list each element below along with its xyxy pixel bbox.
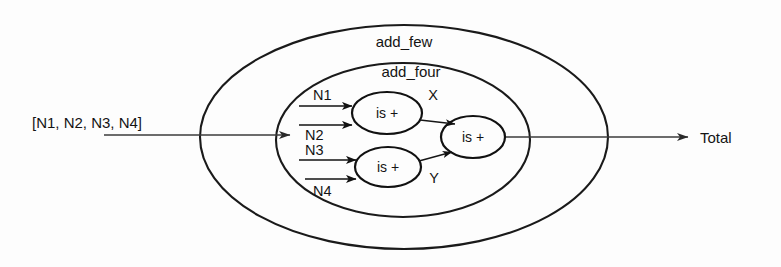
outer-container-label: add_few bbox=[376, 33, 433, 50]
input-label-n1: N1 bbox=[313, 87, 332, 103]
signal-arrow-y bbox=[419, 152, 452, 161]
external-output-label: Total bbox=[700, 129, 732, 146]
external-input-label: [N1, N2, N3, N4] bbox=[32, 114, 142, 131]
input-label-n4: N4 bbox=[313, 183, 332, 199]
signal-label-x: X bbox=[428, 87, 438, 103]
nested-adder-diagram: add_few add_four [N1, N2, N3, N4] Total … bbox=[0, 0, 781, 267]
adder-node-right-label: is + bbox=[462, 129, 484, 145]
diagram-canvas: add_few add_four [N1, N2, N3, N4] Total … bbox=[0, 0, 781, 267]
input-label-n2: N2 bbox=[305, 127, 324, 143]
inner-container-label: add_four bbox=[381, 63, 440, 80]
adder-node-top-label: is + bbox=[376, 105, 398, 121]
signal-label-y: Y bbox=[429, 170, 439, 186]
adder-node-bottom-label: is + bbox=[377, 159, 399, 175]
input-label-n3: N3 bbox=[305, 142, 324, 158]
